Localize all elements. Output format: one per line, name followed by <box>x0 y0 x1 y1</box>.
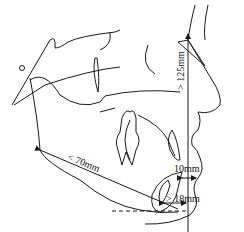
tracing-lines <box>0 0 244 232</box>
label-vertical-125mm: > 125mm <box>176 51 186 90</box>
label-chin-18mm: > 18mm <box>166 194 200 204</box>
cephalometric-diagram: > 125mm < 70mm 10mm > 18mm <box>0 0 244 232</box>
label-lip-10mm: 10mm <box>174 164 200 174</box>
